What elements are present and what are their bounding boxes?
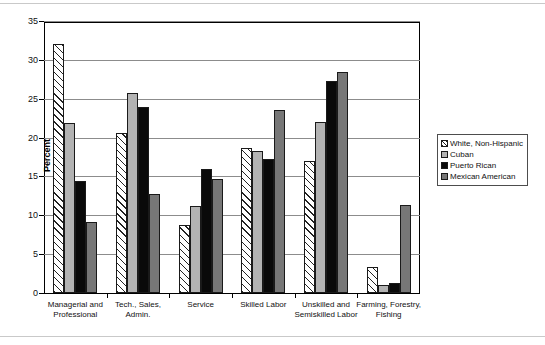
y-axis-tick-label: 15	[12, 171, 38, 181]
chart-legend: White, Non-HispanicCubanPuerto RicanMexi…	[437, 134, 528, 186]
bar	[315, 122, 326, 293]
chart-page: 05101520253035 Percent Managerial andPro…	[0, 0, 545, 345]
x-axis-category-label: Farming, Forestry,Fishing	[349, 300, 428, 320]
legend-item-label: White, Non-Hispanic	[450, 139, 523, 148]
bar-group	[107, 93, 170, 294]
bar	[337, 72, 348, 293]
x-axis-category-label-line: Farming, Forestry,	[349, 300, 428, 310]
bar	[149, 194, 160, 293]
bar	[64, 123, 75, 293]
x-axis-tick	[295, 293, 296, 298]
bar-group	[295, 72, 358, 293]
plot-top-border	[44, 22, 420, 23]
bar	[274, 110, 285, 293]
legend-swatch-icon	[441, 162, 448, 169]
y-axis-tick-label: 0	[12, 288, 38, 298]
y-axis-tick-label: 35	[12, 16, 38, 26]
legend-item-label: Puerto Rican	[450, 161, 496, 170]
y-axis-tick-label: 10	[12, 210, 38, 220]
bar	[201, 169, 212, 293]
y-axis-tick-label: 30	[12, 55, 38, 65]
legend-item-label: Mexican American	[450, 172, 515, 181]
y-axis-tick	[39, 293, 44, 294]
gridline	[44, 21, 420, 22]
legend-swatch-icon	[441, 140, 448, 147]
bar	[241, 148, 252, 293]
legend-item: Mexican American	[441, 171, 523, 182]
bar	[138, 107, 149, 294]
bar	[116, 133, 127, 293]
bar-group	[169, 169, 232, 293]
bar	[127, 93, 138, 294]
legend-item: Cuban	[441, 149, 523, 160]
bar	[75, 181, 86, 293]
x-axis-tick	[357, 293, 358, 298]
y-axis-tick	[39, 21, 44, 22]
bar-group	[44, 44, 107, 293]
bar	[53, 44, 64, 293]
bar	[378, 285, 389, 293]
bar	[190, 206, 201, 293]
bar	[367, 267, 378, 293]
legend-item: White, Non-Hispanic	[441, 138, 523, 149]
bar	[252, 151, 263, 293]
legend-item: Puerto Rican	[441, 160, 523, 171]
x-axis-category-label-line: Fishing	[349, 310, 428, 320]
bar-group	[357, 205, 420, 293]
x-axis-tick	[107, 293, 108, 298]
y-axis-tick-label: 20	[12, 133, 38, 143]
bar	[304, 161, 315, 293]
y-axis-tick-label: 25	[12, 94, 38, 104]
bar	[263, 159, 274, 293]
x-axis-category-label-line: Admin.	[99, 310, 178, 320]
x-axis-tick	[169, 293, 170, 298]
bar	[389, 283, 400, 293]
bar	[326, 81, 337, 293]
page-bottom-rule	[0, 336, 545, 337]
page-top-rule	[0, 3, 545, 4]
bar-group	[232, 110, 295, 293]
legend-swatch-icon	[441, 173, 448, 180]
bar	[86, 222, 97, 293]
x-axis-tick	[232, 293, 233, 298]
legend-swatch-icon	[441, 151, 448, 158]
plot-area: 05101520253035 Percent Managerial andPro…	[44, 22, 420, 294]
bar	[212, 179, 223, 293]
legend-item-label: Cuban	[450, 150, 474, 159]
bar	[179, 225, 190, 293]
bar	[400, 205, 411, 293]
y-axis-tick-label: 5	[12, 249, 38, 259]
